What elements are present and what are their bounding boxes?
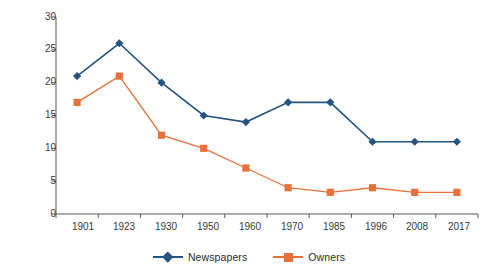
data-point-marker — [242, 118, 250, 126]
square-icon — [273, 251, 303, 263]
series-line — [77, 76, 457, 192]
data-point-marker — [411, 138, 419, 146]
y-axis-title: No. owners and papers — [2, 0, 16, 42]
x-tick-label: 1930 — [145, 221, 187, 232]
line-chart: No. owners and papers 30 25 20 15 10 5 0… — [0, 0, 498, 272]
x-tick-label: 2017 — [438, 221, 480, 232]
y-tick-label: 0 — [34, 209, 56, 219]
x-tick-label: 1901 — [62, 221, 104, 232]
data-point-marker — [411, 189, 418, 196]
y-tick-label: 20 — [34, 77, 56, 87]
series-owners — [74, 73, 461, 196]
y-tick-label: 25 — [34, 44, 56, 54]
y-tick-label: 30 — [34, 12, 56, 22]
y-tick-label: 15 — [34, 110, 56, 120]
x-tick-label: 1985 — [313, 221, 355, 232]
x-tick-label: 1970 — [271, 221, 313, 232]
y-tick-label: 5 — [34, 176, 56, 186]
x-tick-label: 1960 — [229, 221, 271, 232]
data-point-marker — [369, 184, 376, 191]
data-point-marker — [453, 189, 460, 196]
y-axis-tick-labels: 30 25 20 15 10 5 0 — [26, 0, 56, 272]
x-tick-label: 1950 — [187, 221, 229, 232]
data-point-marker — [327, 189, 334, 196]
chart-legend: Newspapers Owners — [0, 248, 498, 266]
legend-item-newspapers[interactable]: Newspapers — [153, 251, 247, 263]
data-point-marker — [284, 98, 292, 106]
legend-label: Owners — [308, 251, 345, 263]
data-point-marker — [285, 184, 292, 191]
data-point-marker — [453, 138, 461, 146]
x-tick-label: 1996 — [355, 221, 397, 232]
data-point-marker — [242, 164, 249, 171]
data-point-marker — [74, 99, 81, 106]
y-tick-label: 10 — [34, 143, 56, 153]
data-point-marker — [116, 73, 123, 80]
diamond-icon — [153, 251, 183, 263]
legend-label: Newspapers — [188, 251, 247, 263]
x-tick-label: 2008 — [396, 221, 438, 232]
data-point-marker — [200, 145, 207, 152]
series-line — [77, 43, 457, 142]
x-tick-label: 1923 — [103, 221, 145, 232]
legend-item-owners[interactable]: Owners — [273, 251, 345, 263]
data-point-marker — [158, 132, 165, 139]
